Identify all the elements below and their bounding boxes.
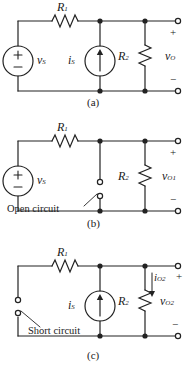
- node-dot: [97, 18, 102, 23]
- label-is: iS: [68, 54, 75, 66]
- node-dot: [97, 333, 102, 338]
- source-plus-symbol: [14, 171, 22, 179]
- open-terminal-lower: [97, 193, 102, 198]
- resistor-r1-body: [52, 260, 78, 272]
- node-dot: [97, 88, 102, 93]
- label-is: iS: [68, 299, 75, 311]
- node-dot: [142, 138, 147, 143]
- circuit-figure-c: R1 iS R2 iO2 vO2 + − Short circuit (c): [0, 245, 191, 377]
- resistor-r2-body: [139, 290, 151, 311]
- label-iout2: iO2: [154, 272, 166, 283]
- label-r2: R2: [118, 50, 129, 62]
- resistor-r2-body: [139, 45, 151, 66]
- node-dot: [97, 208, 102, 213]
- terminal-top-c: [175, 263, 180, 268]
- terminal-top-b: [175, 138, 180, 143]
- annotation-open-circuit: Open circuit: [7, 204, 59, 215]
- node-dot: [142, 18, 147, 23]
- label-polarity-minus: −: [170, 194, 176, 205]
- node-dot: [97, 138, 102, 143]
- node-dot: [142, 333, 147, 338]
- node-dot: [97, 263, 102, 268]
- circuit-figure-a: R1 vS iS R2 vO + − (a): [0, 0, 191, 120]
- circuit-figure-b: R1 vS R2 vO1 + − Open circuit (b): [0, 120, 191, 245]
- label-r1: R1: [57, 246, 68, 258]
- short-terminal-upper: [15, 297, 20, 302]
- terminal-bottom-b: [175, 208, 180, 213]
- label-polarity-minus: −: [170, 74, 176, 85]
- resistor-r2-body: [139, 165, 151, 186]
- annotation-leader-line: [84, 194, 97, 206]
- label-r2: R2: [118, 170, 129, 182]
- annotation-short-circuit: Short circuit: [28, 326, 80, 337]
- label-vout2: vO2: [160, 295, 174, 307]
- terminal-top-a: [175, 18, 180, 23]
- label-polarity-minus: −: [172, 319, 178, 330]
- label-vout1: vO1: [162, 170, 176, 182]
- caption-a: (a): [87, 97, 99, 108]
- terminal-bottom-c: [175, 333, 180, 338]
- current-arrow-head: [97, 49, 103, 55]
- node-dot: [142, 208, 147, 213]
- caption-b: (b): [87, 218, 100, 229]
- label-vs: vS: [37, 54, 46, 66]
- label-polarity-plus: +: [170, 147, 176, 158]
- resistor-r1-body: [52, 135, 78, 147]
- source-plus-symbol: [14, 51, 22, 59]
- current-arrow-head: [97, 294, 103, 300]
- label-polarity-plus: +: [170, 27, 176, 38]
- label-vs: vS: [37, 174, 46, 186]
- caption-c: (c): [87, 350, 99, 361]
- label-vout: vO: [165, 50, 175, 62]
- label-r2: R2: [118, 295, 129, 307]
- label-r1: R1: [57, 1, 68, 13]
- resistor-r1-body: [52, 15, 78, 27]
- node-dot: [142, 263, 147, 268]
- open-terminal-upper: [97, 179, 102, 184]
- node-dot: [142, 88, 147, 93]
- label-r1: R1: [57, 121, 68, 133]
- label-polarity-plus: +: [176, 271, 182, 282]
- short-terminal-lower: [15, 310, 20, 315]
- terminal-bottom-a: [175, 88, 180, 93]
